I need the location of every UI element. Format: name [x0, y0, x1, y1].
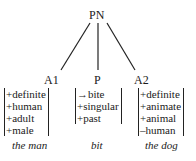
- feature-matrix-a2: +definite +animate +animal –human: [138, 88, 184, 136]
- feature: +definite: [6, 88, 46, 100]
- gloss-a1: the man: [12, 139, 47, 151]
- gloss-a2: the dog: [145, 139, 178, 151]
- node-p: P: [94, 74, 101, 86]
- edge-pn-a2: [107, 23, 135, 70]
- feature: +singular: [77, 100, 119, 112]
- feature: +animal: [140, 112, 181, 124]
- feature: +past: [77, 112, 119, 124]
- feature: +male: [6, 124, 46, 136]
- feature: +animate: [140, 100, 181, 112]
- feature: +human: [6, 100, 46, 112]
- root-node-pn: PN: [89, 9, 104, 21]
- feature: →bite: [77, 88, 119, 100]
- feature-matrix-a1: +definite +human +adult +male: [4, 88, 49, 136]
- feature: +adult: [6, 112, 46, 124]
- feature-matrix-p: →bite +singular +past: [75, 88, 122, 124]
- edge-pn-a1: [61, 23, 90, 70]
- gloss-p: bit: [91, 139, 103, 151]
- feature: –human: [140, 124, 181, 136]
- feature: +definite: [140, 88, 181, 100]
- node-a2: A2: [134, 74, 149, 86]
- node-a1: A1: [44, 74, 59, 86]
